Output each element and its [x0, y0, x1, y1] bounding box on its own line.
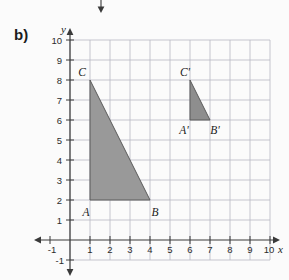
x-tick-4: 4	[147, 244, 152, 255]
x-tick-6: 6	[187, 244, 192, 255]
y-tick-7: 7	[57, 95, 62, 106]
y-tick-6: 6	[57, 115, 62, 126]
x-tick-1: 1	[87, 244, 92, 255]
y-axis	[67, 28, 74, 276]
x-tick-9: 9	[247, 244, 252, 255]
x-axis	[34, 237, 280, 244]
vertex-label-b-prime: B'	[210, 124, 220, 136]
y-tick-4: 4	[57, 155, 62, 166]
y-tick-8: 8	[57, 75, 62, 86]
x-tick-8: 8	[227, 244, 232, 255]
y-tick-2: 2	[57, 195, 62, 206]
y-tick-5: 5	[57, 135, 62, 146]
y-tick-1: 1	[57, 215, 62, 226]
y-tick-10: 10	[51, 35, 62, 46]
x-tick-10: 10	[264, 244, 275, 255]
y-axis-label: y	[60, 23, 66, 35]
x-axis-label: x	[277, 243, 283, 255]
stray-arrow-icon	[98, 0, 105, 13]
coordinate-plane: 10 9 8 7 6 5 4 3 2 1 -1 -1 1 2 3 4 5 6 7…	[0, 0, 289, 280]
x-tick-7: 7	[207, 244, 212, 255]
x-tick-3: 3	[127, 244, 132, 255]
y-tick-9: 9	[57, 55, 62, 66]
x-tick-2: 2	[107, 244, 112, 255]
vertex-label-a: A	[81, 206, 90, 218]
vertex-label-b: B	[151, 206, 158, 218]
y-tick-3: 3	[57, 175, 62, 186]
x-tick-5: 5	[167, 244, 172, 255]
figure-container: b)	[0, 0, 289, 280]
vertex-label-c: C	[78, 66, 86, 78]
vertex-label-a-prime: A'	[178, 124, 189, 136]
x-tick-neg1: -1	[48, 244, 56, 255]
y-tick-neg1: -1	[56, 255, 64, 266]
vertex-label-c-prime: C'	[180, 66, 191, 78]
